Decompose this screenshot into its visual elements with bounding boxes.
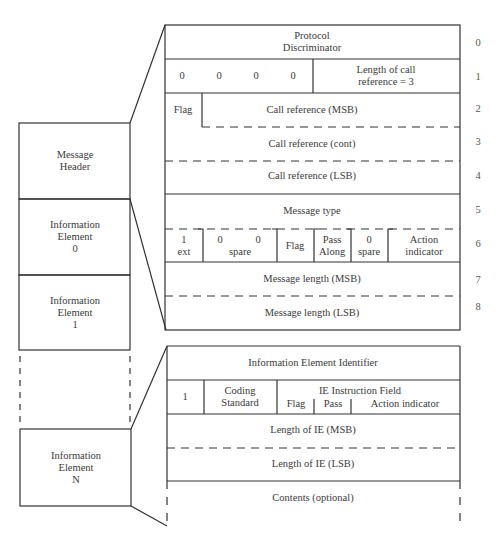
- spare2-label: 0 spare: [358, 234, 380, 258]
- ie-instruction-field: IE Instruction Field: [319, 385, 401, 397]
- bit-2: 0: [253, 70, 258, 82]
- octet-5: 5: [475, 204, 480, 215]
- spare-bit-b: 0: [255, 234, 260, 246]
- message-header-label: Message Header: [57, 149, 94, 173]
- call-ref-lsb: Call reference (LSB): [268, 170, 356, 182]
- octet-7: 7: [475, 274, 480, 285]
- octet-0: 0: [475, 37, 480, 48]
- expand-line: [130, 25, 165, 123]
- call-ref-length: Length of call reference = 3: [357, 64, 416, 88]
- coding-standard: Coding Standard: [221, 385, 258, 409]
- ie0-label: Information Element 0: [50, 219, 100, 255]
- octet-1: 1: [475, 71, 480, 82]
- protocol-discriminator: Protocol Discriminator: [283, 30, 341, 54]
- message-length-msb: Message length (MSB): [263, 273, 360, 285]
- bit-0: 0: [179, 70, 184, 82]
- expand-line: [131, 506, 167, 526]
- ie1-label: Information Element 1: [50, 295, 100, 331]
- ie-length-lsb: Length of IE (LSB): [272, 458, 355, 470]
- call-ref-cont: Call reference (cont): [269, 138, 356, 150]
- expand-line: [131, 346, 167, 429]
- message-type: Message type: [283, 205, 340, 217]
- ie-contents: Contents (optional): [272, 492, 353, 504]
- flag6-label: Flag: [286, 240, 305, 252]
- bit-3: 0: [290, 70, 295, 82]
- ie-flag: Flag: [287, 398, 306, 410]
- ie-length-msb: Length of IE (MSB): [270, 424, 355, 436]
- spare-label: spare: [229, 246, 251, 258]
- ie-pass: Pass: [324, 398, 343, 410]
- ie-action-indicator: Action indicator: [371, 398, 440, 410]
- octet-4: 4: [475, 170, 480, 181]
- octet-6: 6: [475, 238, 480, 249]
- spare-bit-a: 0: [217, 234, 222, 246]
- expand-line: [130, 199, 166, 330]
- flag-label: Flag: [174, 104, 193, 116]
- octet-8: 8: [475, 301, 480, 312]
- bit-1: 0: [216, 70, 221, 82]
- ie-identifier: Information Element Identifier: [248, 357, 377, 369]
- action-indicator: Action indicator: [405, 234, 442, 258]
- pass-along-label: Pass Along: [319, 234, 345, 258]
- ext-label: 1 ext: [178, 234, 191, 258]
- message-length-lsb: Message length (LSB): [265, 307, 360, 319]
- ie-ext: 1: [182, 391, 187, 403]
- octet-2: 2: [475, 103, 480, 114]
- ieN-label: Information Element N: [51, 450, 101, 486]
- octet-3: 3: [475, 136, 480, 147]
- call-ref-msb: Call reference (MSB): [267, 104, 358, 116]
